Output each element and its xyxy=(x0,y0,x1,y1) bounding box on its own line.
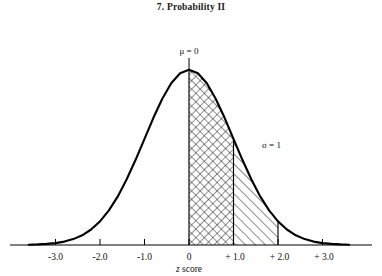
sigma-label: σ = 1 xyxy=(262,140,281,150)
x-tick-label-pos1: + 1.0 xyxy=(225,252,245,262)
x-axis-ticks xyxy=(56,239,323,245)
x-axis-caption-text: score xyxy=(180,264,202,274)
normal-distribution-chart: -3.0 -2.0 -1.0 0 + 1.0 + 2.0 + 3.0 z sco… xyxy=(0,0,382,276)
x-tick-label-neg3: -3.0 xyxy=(48,252,63,262)
x-tick-label-neg2: -2.0 xyxy=(92,252,107,262)
x-tick-label-pos3: + 3.0 xyxy=(314,252,334,262)
figure-root: 7. Probability II xyxy=(0,0,382,276)
mean-label: μ = 0 xyxy=(180,46,199,56)
x-tick-label-neg1: -1.0 xyxy=(137,252,152,262)
x-axis-tick-labels: -3.0 -2.0 -1.0 0 + 1.0 + 2.0 + 3.0 xyxy=(48,252,334,262)
x-tick-label-pos2: + 2.0 xyxy=(270,252,290,262)
x-axis-caption: z score xyxy=(175,264,202,274)
x-tick-label-zero: 0 xyxy=(187,252,192,262)
